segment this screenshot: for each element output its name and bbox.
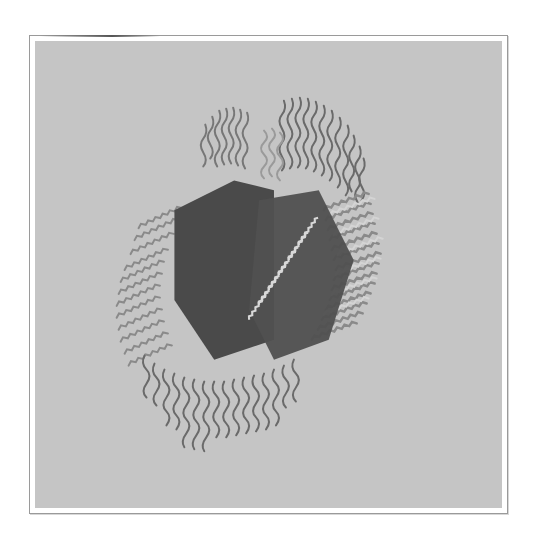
dark-planes: [174, 180, 353, 359]
artwork-canvas: [35, 41, 502, 508]
artwork-frame: [29, 35, 508, 514]
abstract-artwork: [35, 41, 502, 508]
frame-top-shadow: [40, 35, 160, 37]
